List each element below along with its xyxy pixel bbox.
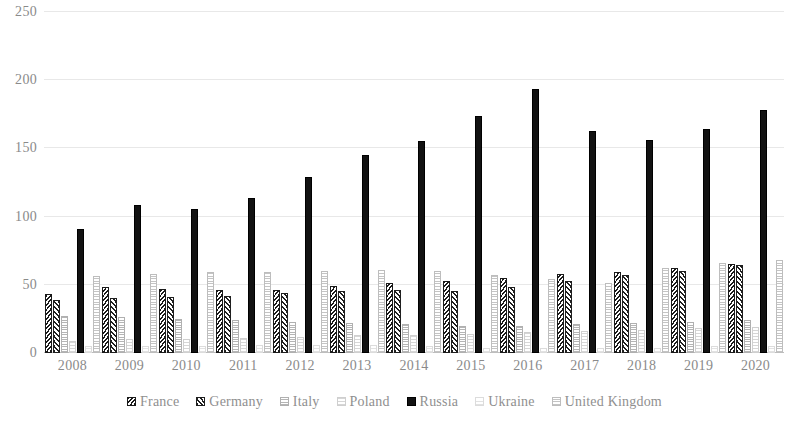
bar-russia-2008[interactable] xyxy=(77,229,84,353)
bar-france-2018[interactable] xyxy=(614,272,621,353)
bar-russia-2014[interactable] xyxy=(418,141,425,353)
bar-france-2017[interactable] xyxy=(557,274,564,353)
bar-united-kingdom-2012[interactable] xyxy=(321,271,328,353)
bar-ukraine-2015[interactable] xyxy=(483,348,490,353)
bar-france-2014[interactable] xyxy=(386,283,393,353)
bar-poland-2008[interactable] xyxy=(69,341,76,353)
bar-poland-2009[interactable] xyxy=(126,339,133,353)
bar-germany-2019[interactable] xyxy=(679,271,686,353)
bar-russia-2012[interactable] xyxy=(305,177,312,353)
bar-ukraine-2012[interactable] xyxy=(313,345,320,353)
bar-ukraine-2016[interactable] xyxy=(540,348,547,353)
bar-russia-2018[interactable] xyxy=(646,140,653,353)
bar-poland-2018[interactable] xyxy=(638,330,645,353)
bar-italy-2012[interactable] xyxy=(289,322,296,353)
bar-italy-2014[interactable] xyxy=(402,324,409,353)
bar-russia-2020[interactable] xyxy=(760,110,767,354)
bar-germany-2020[interactable] xyxy=(736,265,743,353)
bar-italy-2008[interactable] xyxy=(61,316,68,353)
bar-united-kingdom-2010[interactable] xyxy=(207,272,214,353)
bar-russia-2015[interactable] xyxy=(475,116,482,353)
bar-poland-2014[interactable] xyxy=(410,335,417,353)
bar-germany-2018[interactable] xyxy=(622,275,629,353)
bar-france-2020[interactable] xyxy=(728,264,735,353)
bar-italy-2018[interactable] xyxy=(630,323,637,353)
legend-item-united-kingdom[interactable]: United Kingdom xyxy=(552,394,662,409)
bar-italy-2016[interactable] xyxy=(516,326,523,353)
bar-france-2015[interactable] xyxy=(443,281,450,354)
bar-italy-2019[interactable] xyxy=(687,322,694,353)
bar-united-kingdom-2019[interactable] xyxy=(719,263,726,353)
bar-germany-2014[interactable] xyxy=(394,290,401,353)
bar-poland-2020[interactable] xyxy=(752,327,759,353)
bar-germany-2016[interactable] xyxy=(508,287,515,353)
bar-ukraine-2014[interactable] xyxy=(426,346,433,353)
bar-united-kingdom-2018[interactable] xyxy=(662,268,669,353)
bar-ukraine-2010[interactable] xyxy=(199,346,206,353)
legend-item-france[interactable]: France xyxy=(127,394,179,409)
bar-italy-2020[interactable] xyxy=(744,320,751,353)
bar-united-kingdom-2015[interactable] xyxy=(491,275,498,353)
bar-germany-2013[interactable] xyxy=(338,291,345,353)
bar-united-kingdom-2014[interactable] xyxy=(434,271,441,353)
bar-russia-2017[interactable] xyxy=(589,131,596,353)
bar-ukraine-2020[interactable] xyxy=(768,346,775,353)
bar-italy-2013[interactable] xyxy=(346,323,353,353)
x-axis-tick-label: 2018 xyxy=(613,358,670,374)
legend-swatch-icon xyxy=(337,397,346,406)
bar-france-2009[interactable] xyxy=(102,287,109,353)
bar-france-2013[interactable] xyxy=(330,286,337,353)
bar-poland-2010[interactable] xyxy=(183,339,190,353)
bar-italy-2009[interactable] xyxy=(118,317,125,353)
bar-poland-2015[interactable] xyxy=(467,334,474,353)
bar-russia-2019[interactable] xyxy=(703,129,710,353)
bar-united-kingdom-2009[interactable] xyxy=(150,274,157,353)
bar-italy-2015[interactable] xyxy=(459,326,466,353)
bar-poland-2011[interactable] xyxy=(240,338,247,353)
bar-united-kingdom-2017[interactable] xyxy=(605,283,612,353)
bar-france-2016[interactable] xyxy=(500,278,507,353)
bar-italy-2010[interactable] xyxy=(175,319,182,353)
legend-item-russia[interactable]: Russia xyxy=(407,394,459,409)
bar-poland-2012[interactable] xyxy=(297,337,304,353)
bar-poland-2013[interactable] xyxy=(354,335,361,353)
bar-italy-2011[interactable] xyxy=(232,320,239,353)
bar-france-2010[interactable] xyxy=(159,289,166,353)
bar-france-2019[interactable] xyxy=(671,268,678,353)
bar-germany-2008[interactable] xyxy=(53,300,60,353)
bar-russia-2016[interactable] xyxy=(532,89,539,353)
legend-item-poland[interactable]: Poland xyxy=(337,394,390,409)
legend-item-germany[interactable]: Germany xyxy=(196,394,263,409)
bar-ukraine-2019[interactable] xyxy=(711,346,718,353)
bar-united-kingdom-2008[interactable] xyxy=(93,276,100,353)
bar-poland-2016[interactable] xyxy=(524,332,531,353)
bar-united-kingdom-2020[interactable] xyxy=(776,260,783,353)
bar-germany-2015[interactable] xyxy=(451,291,458,353)
bar-ukraine-2011[interactable] xyxy=(256,345,263,353)
bar-russia-2013[interactable] xyxy=(362,155,369,353)
bar-united-kingdom-2013[interactable] xyxy=(378,270,385,353)
bar-poland-2019[interactable] xyxy=(695,328,702,353)
bar-germany-2009[interactable] xyxy=(110,298,117,353)
bar-ukraine-2008[interactable] xyxy=(85,346,92,353)
bar-ukraine-2018[interactable] xyxy=(654,348,661,353)
bar-united-kingdom-2016[interactable] xyxy=(548,279,555,353)
bar-russia-2011[interactable] xyxy=(248,198,255,353)
bar-italy-2017[interactable] xyxy=(573,324,580,353)
bar-united-kingdom-2011[interactable] xyxy=(264,272,271,353)
bar-ukraine-2017[interactable] xyxy=(597,348,604,353)
bar-france-2008[interactable] xyxy=(45,294,52,353)
bar-poland-2017[interactable] xyxy=(581,331,588,353)
legend-item-italy[interactable]: Italy xyxy=(280,394,320,409)
bar-germany-2011[interactable] xyxy=(224,296,231,353)
bar-germany-2010[interactable] xyxy=(167,297,174,353)
legend-item-ukraine[interactable]: Ukraine xyxy=(475,394,535,409)
bar-russia-2009[interactable] xyxy=(134,205,141,353)
bar-germany-2012[interactable] xyxy=(281,293,288,353)
bar-germany-2017[interactable] xyxy=(565,281,572,354)
bar-france-2012[interactable] xyxy=(273,290,280,353)
bar-france-2011[interactable] xyxy=(216,290,223,353)
bar-ukraine-2013[interactable] xyxy=(370,345,377,353)
bar-russia-2010[interactable] xyxy=(191,209,198,353)
bar-ukraine-2009[interactable] xyxy=(142,346,149,353)
